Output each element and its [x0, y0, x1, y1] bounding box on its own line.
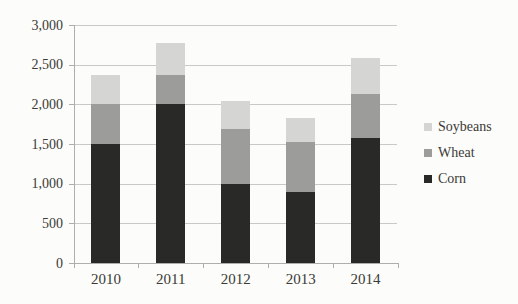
y-axis-tick-label-1500: 1,500	[7, 136, 63, 153]
legend-swatch-soybeans-icon	[424, 123, 432, 131]
legend: SoybeansWheatCorn	[424, 119, 492, 197]
x-axis-category-label-2011: 2011	[139, 270, 203, 288]
legend-item-soybeans: Soybeans	[424, 119, 492, 135]
y-axis-tick-label-2000: 2,000	[7, 96, 63, 113]
x-axis-category-label-2013: 2013	[269, 270, 333, 288]
y-axis-tick-label-2500: 2,500	[7, 56, 63, 73]
y-axis-tick-label-500: 500	[7, 215, 63, 232]
legend-item-wheat: Wheat	[424, 145, 492, 161]
legend-label-soybeans: Soybeans	[438, 119, 492, 135]
y-axis-tick-label-1000: 1,000	[7, 175, 63, 192]
x-axis-category-label-2014: 2014	[334, 270, 398, 288]
x-axis-category-label-2010: 2010	[74, 270, 138, 288]
y-axis-tick-label-0: 0	[7, 255, 63, 272]
legend-swatch-wheat-icon	[424, 149, 432, 157]
x-axis-category-label-2012: 2012	[204, 270, 268, 288]
legend-item-corn: Corn	[424, 171, 492, 187]
legend-label-corn: Corn	[438, 171, 466, 187]
stacked-bar-chart-figure: 05001,0001,5002,0002,5003,00020102011201…	[0, 0, 518, 304]
legend-label-wheat: Wheat	[438, 145, 475, 161]
legend-swatch-corn-icon	[424, 175, 432, 183]
y-axis-tick-label-3000: 3,000	[7, 17, 63, 34]
